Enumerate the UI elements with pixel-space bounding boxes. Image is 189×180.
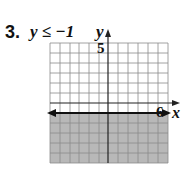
shaded-region <box>50 113 168 163</box>
x-tick-label: 6 <box>156 104 164 121</box>
x-axis-label: x <box>172 104 180 122</box>
y-tick-label: 5 <box>97 40 105 57</box>
graph <box>0 0 189 180</box>
y-axis-arrow-icon <box>105 29 111 37</box>
